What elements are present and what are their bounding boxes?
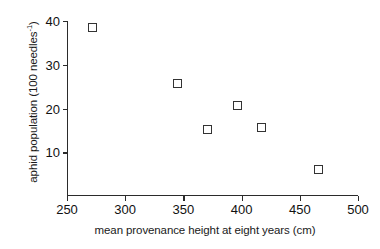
x-tick-label-450: 450 xyxy=(289,202,311,217)
x-tick-label-400: 400 xyxy=(231,202,253,217)
x-tick-250 xyxy=(67,196,68,201)
x-tick-label-500: 500 xyxy=(347,202,369,217)
data-point xyxy=(203,125,212,134)
y-tick-label-20: 20 xyxy=(46,101,60,116)
data-point xyxy=(233,101,242,110)
y-tick-label-30: 30 xyxy=(46,57,60,72)
x-tick-450 xyxy=(300,196,301,201)
y-tick-40 xyxy=(63,21,68,22)
x-tick-label-300: 300 xyxy=(114,202,136,217)
y-tick-30 xyxy=(63,65,68,66)
y-tick-label-10: 10 xyxy=(46,145,60,160)
x-axis-title: mean provenance height at eight years (c… xyxy=(40,224,370,236)
x-tick-300 xyxy=(125,196,126,201)
x-tick-350 xyxy=(183,196,184,201)
data-point xyxy=(314,165,323,174)
data-point xyxy=(173,79,182,88)
y-tick-label-40: 40 xyxy=(46,14,60,29)
y-tick-10 xyxy=(63,152,68,153)
y-axis-title-prefix: aphid population (100 needles xyxy=(27,32,39,183)
y-axis-title-suffix: ) xyxy=(27,21,39,25)
y-axis-title-superscript: -1 xyxy=(25,25,34,31)
data-point xyxy=(257,123,266,132)
plot-area: 10203040 250300350400450500 xyxy=(67,21,358,196)
data-point xyxy=(88,23,97,32)
x-tick-label-350: 350 xyxy=(173,202,195,217)
x-tick-500 xyxy=(358,196,359,201)
x-axis-line xyxy=(67,195,358,196)
y-axis-line xyxy=(67,21,68,196)
y-tick-20 xyxy=(63,109,68,110)
y-axis-title: aphid population (100 needles-1) xyxy=(22,2,44,202)
scatter-plot-figure: aphid population (100 needles-1) 1020304… xyxy=(0,0,380,249)
x-tick-400 xyxy=(242,196,243,201)
x-tick-label-250: 250 xyxy=(56,202,78,217)
